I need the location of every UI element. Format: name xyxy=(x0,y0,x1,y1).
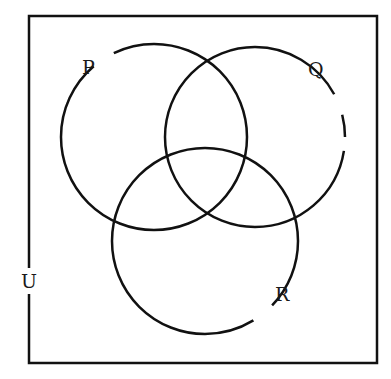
set-q-label: Q xyxy=(308,58,324,80)
universal-set-label: U xyxy=(21,270,37,292)
set-p-label: P xyxy=(82,56,95,78)
set-r-label: R xyxy=(275,283,290,305)
venn-diagram: P Q R U xyxy=(0,0,391,379)
set-r-circle xyxy=(112,148,298,334)
